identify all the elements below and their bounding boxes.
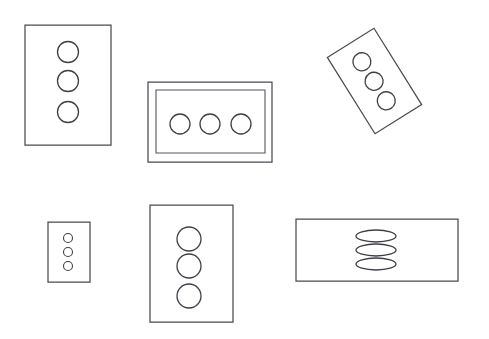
figure-canvas: [0, 0, 489, 339]
shapes-figure: [0, 0, 489, 339]
figure-background: [0, 0, 489, 339]
